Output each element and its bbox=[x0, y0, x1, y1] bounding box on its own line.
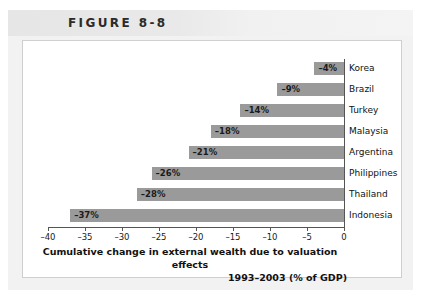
x-axis-caption-line1: Cumulative change in external wealth due… bbox=[43, 246, 338, 270]
bar-value-label: –28% bbox=[137, 188, 166, 201]
figure-header-band: FIGURE 8-8 bbox=[8, 10, 413, 36]
x-tick bbox=[307, 227, 308, 231]
category-label: Korea bbox=[349, 61, 375, 75]
bar bbox=[70, 209, 344, 222]
x-axis-caption-line2: 1993–2003 (% of GDP) bbox=[31, 271, 349, 284]
category-label: Malaysia bbox=[349, 124, 388, 138]
x-tick-label: –5 bbox=[302, 232, 312, 242]
x-tick-label: –10 bbox=[262, 232, 277, 242]
x-tick-label: –40 bbox=[40, 232, 55, 242]
x-tick-label: –35 bbox=[77, 232, 92, 242]
figure-number-label: FIGURE 8-8 bbox=[68, 16, 168, 30]
bar-row: –9%Brazil bbox=[23, 80, 403, 101]
bar-series: –4%Korea–9%Brazil–14%Turkey–18%Malaysia–… bbox=[23, 59, 403, 227]
bar-value-label: –18% bbox=[211, 125, 240, 138]
bar-row: –26%Philippines bbox=[23, 164, 403, 185]
bar-row: –18%Malaysia bbox=[23, 122, 403, 143]
x-tick-label: –25 bbox=[151, 232, 166, 242]
figure-page: FIGURE 8-8 –4%Korea–9%Brazil–14%Turkey–1… bbox=[0, 0, 423, 301]
x-tick-label: 0 bbox=[341, 232, 346, 242]
category-label: Argentina bbox=[349, 145, 393, 159]
bar-value-label: –26% bbox=[152, 167, 181, 180]
bar-row: –28%Thailand bbox=[23, 185, 403, 206]
bar-row: –37%Indonesia bbox=[23, 206, 403, 227]
x-tick bbox=[122, 227, 123, 231]
x-tick bbox=[196, 227, 197, 231]
bar-row: –21%Argentina bbox=[23, 143, 403, 164]
bar bbox=[137, 188, 344, 201]
bar-value-label: –9% bbox=[277, 83, 300, 96]
x-tick-label: –20 bbox=[188, 232, 203, 242]
category-label: Philippines bbox=[349, 166, 398, 180]
bar-value-label: –37% bbox=[70, 209, 99, 222]
x-tick bbox=[270, 227, 271, 231]
x-tick-label: –30 bbox=[114, 232, 129, 242]
bar-row: –14%Turkey bbox=[23, 101, 403, 122]
bar bbox=[152, 167, 344, 180]
category-label: Brazil bbox=[349, 82, 374, 96]
x-tick bbox=[233, 227, 234, 231]
bar-chart-plot: –4%Korea–9%Brazil–14%Turkey–18%Malaysia–… bbox=[23, 41, 403, 279]
bar-row: –4%Korea bbox=[23, 59, 403, 80]
category-label: Turkey bbox=[349, 103, 378, 117]
x-tick bbox=[48, 227, 49, 231]
x-tick bbox=[85, 227, 86, 231]
x-tick bbox=[344, 227, 345, 231]
x-tick-label: –15 bbox=[225, 232, 240, 242]
zero-axis-line bbox=[344, 59, 345, 227]
bar-value-label: –4% bbox=[314, 62, 337, 75]
bar-value-label: –21% bbox=[189, 146, 218, 159]
x-tick bbox=[159, 227, 160, 231]
chart-panel: –4%Korea–9%Brazil–14%Turkey–18%Malaysia–… bbox=[22, 40, 402, 278]
category-label: Indonesia bbox=[349, 208, 393, 222]
bar-value-label: –14% bbox=[240, 104, 269, 117]
x-axis-caption: Cumulative change in external wealth due… bbox=[31, 245, 349, 284]
category-label: Thailand bbox=[349, 187, 388, 201]
